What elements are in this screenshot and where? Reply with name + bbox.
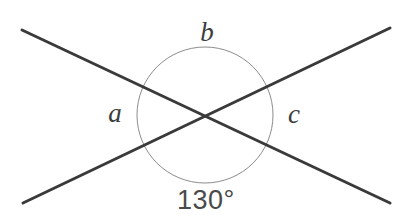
angle-label-a: a	[108, 100, 122, 127]
angle-label-c: c	[288, 101, 300, 128]
angle-label-b: b	[200, 19, 214, 46]
geometry-diagram: a b c 130°	[0, 0, 412, 223]
angle-measure-130-degrees: 130°	[177, 187, 235, 214]
